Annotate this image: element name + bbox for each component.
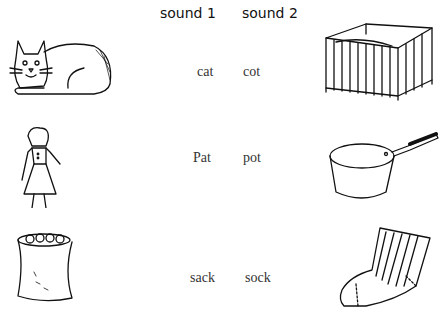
cot-icon (322, 22, 436, 102)
girl-icon (16, 124, 62, 208)
word-sound2-row3: sock (245, 270, 271, 286)
word-sound1-row3: sack (190, 270, 215, 286)
header-sound-2: sound 2 (242, 5, 298, 21)
word-sound2-row1: cot (243, 64, 260, 80)
sock-icon (336, 226, 436, 308)
word-sound1-row2: Pat (193, 150, 211, 166)
cat-icon (4, 36, 116, 98)
header-sound-1: sound 1 (160, 5, 216, 21)
sack-icon (14, 232, 76, 306)
word-sound2-row2: pot (243, 150, 261, 166)
word-sound1-row1: cat (197, 64, 213, 80)
saucepan-icon (328, 132, 440, 202)
